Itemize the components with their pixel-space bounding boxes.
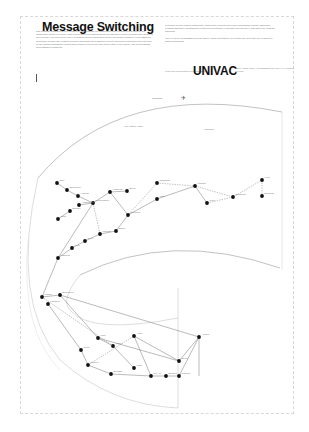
node-label: Hamburg xyxy=(113,188,124,191)
node-label: Tripolis xyxy=(91,361,99,364)
network-node xyxy=(56,256,60,260)
network-node xyxy=(76,194,80,198)
network-node xyxy=(68,209,72,213)
network-node xyxy=(111,344,115,348)
network-node xyxy=(126,213,130,217)
network-node xyxy=(58,293,62,297)
node-label: Kopenhagen xyxy=(96,199,110,202)
network-node xyxy=(177,374,181,378)
airplane-icon: ✈ xyxy=(181,95,186,101)
network-node xyxy=(155,181,159,185)
network-node xyxy=(70,246,74,250)
network-node xyxy=(177,359,181,363)
node-label: Brüssel xyxy=(73,207,81,210)
node-label: Beirut xyxy=(182,357,189,360)
node-label: München xyxy=(131,211,142,214)
node-label: Warschau xyxy=(160,179,171,182)
network-node xyxy=(155,197,159,201)
network-node xyxy=(46,302,50,306)
network-node xyxy=(55,181,59,185)
node-label: Berlin xyxy=(130,187,137,190)
node-label: Teheran xyxy=(182,372,191,375)
node-label: Helsinki xyxy=(81,192,90,195)
network-node xyxy=(79,348,83,352)
node-label: Rom xyxy=(101,334,106,337)
node-label: Marseille xyxy=(61,254,71,257)
node-label: Mailand xyxy=(103,230,112,233)
node-label: Ankara xyxy=(202,333,210,336)
node-label: Barcelona xyxy=(63,291,74,294)
node-label: Madrid xyxy=(45,293,53,296)
network-node xyxy=(193,184,197,188)
node-label: Tunis xyxy=(84,346,91,349)
node-label: Tel Aviv xyxy=(154,372,163,375)
network-node xyxy=(108,190,112,194)
node-label: Stockholm xyxy=(70,186,81,189)
network-node xyxy=(260,194,264,198)
network-node xyxy=(40,295,44,299)
region-label-1: SKANDINAVIEN xyxy=(125,125,143,128)
network-node xyxy=(231,195,235,199)
network-node xyxy=(132,366,136,370)
map-top-label: LONDON xyxy=(152,97,163,100)
network-node xyxy=(109,372,113,376)
node-label: Algier xyxy=(137,332,143,335)
network-node xyxy=(83,239,87,243)
network-node xyxy=(96,336,100,340)
network-node xyxy=(132,334,136,338)
network-node xyxy=(56,217,60,221)
node-label: Kiew xyxy=(265,176,270,179)
node-label: Zürich xyxy=(119,227,126,230)
network-nodes: OsloStockholmHelsinkiKopenhagenHamburgBe… xyxy=(40,176,274,378)
network-node xyxy=(125,189,129,193)
node-label: Bagdad xyxy=(169,372,178,375)
network-node xyxy=(260,178,264,182)
node-label: Prag xyxy=(160,195,166,198)
node-label: Paris xyxy=(61,215,67,218)
node-label: Bukarest xyxy=(265,192,275,195)
node-label: Budapest xyxy=(236,193,246,196)
node-label: Kairo xyxy=(137,364,143,367)
node-label: Wien xyxy=(210,199,216,202)
network-map: LONDON ✈ SKANDINAVIEN EUROPA OsloStockho… xyxy=(0,0,309,432)
node-label: Bengasi xyxy=(114,370,123,373)
region-label-2: EUROPA xyxy=(205,128,215,131)
network-node xyxy=(164,374,168,378)
node-label: Athen xyxy=(116,342,123,345)
network-node xyxy=(114,229,118,233)
network-node xyxy=(65,188,69,192)
node-label: Genf xyxy=(88,237,94,240)
network-node xyxy=(98,232,102,236)
network-node xyxy=(205,201,209,205)
node-label: Amsterdam xyxy=(82,201,94,204)
node-label: Oslo xyxy=(60,179,66,182)
node-label: Lyon xyxy=(75,244,81,247)
network-node xyxy=(197,335,201,339)
node-label: Lissabon xyxy=(51,300,61,303)
node-label: Moskau xyxy=(198,182,207,185)
network-node xyxy=(86,363,90,367)
network-node xyxy=(149,374,153,378)
